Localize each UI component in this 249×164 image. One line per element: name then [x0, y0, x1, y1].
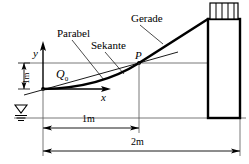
sekante-line [24, 63, 139, 95]
label-load-q0: Q0 [56, 68, 68, 83]
label-load-q0-subscript: 0 [65, 75, 69, 83]
label-axis-x: x [101, 92, 106, 103]
diagram-canvas: Parabel Sekante Gerade P y x Q0 1m 1m 2m [0, 0, 249, 164]
label-sekante: Sekante [91, 40, 126, 51]
label-load-q0-symbol: Q [56, 67, 65, 81]
datum-triangle-icon [15, 105, 27, 113]
label-point-p: P [135, 50, 142, 61]
leader-line-gerade [140, 25, 163, 44]
sekante-extension-right [139, 52, 178, 63]
label-dim-span-outer: 2m [131, 137, 144, 147]
label-axis-y: y [33, 48, 38, 59]
wall-column [208, 19, 240, 118]
label-dim-span-inner: 1m [82, 114, 95, 124]
label-gerade: Gerade [131, 13, 163, 24]
datum-hatch-icon [15, 116, 27, 121]
diagram-vector-layer [0, 0, 249, 164]
label-parabel: Parabel [57, 28, 90, 39]
label-dim-vertical: 1m [22, 72, 31, 84]
gerade-line [139, 19, 208, 63]
